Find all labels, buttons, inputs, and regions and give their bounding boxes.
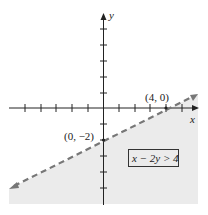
point-0-neg2	[102, 138, 105, 141]
inequality-label: x − 2y > 4	[131, 152, 179, 164]
point-label-4-0: (4, 0)	[145, 91, 169, 104]
point-label-0-neg2: (0, −2)	[64, 130, 94, 143]
y-axis-label: y	[108, 9, 114, 21]
x-axis-label: x	[189, 113, 195, 125]
inequality-graph: y x (4, 0) (0, −2) x − 2y > 4	[0, 0, 208, 215]
point-4-0	[164, 106, 167, 109]
